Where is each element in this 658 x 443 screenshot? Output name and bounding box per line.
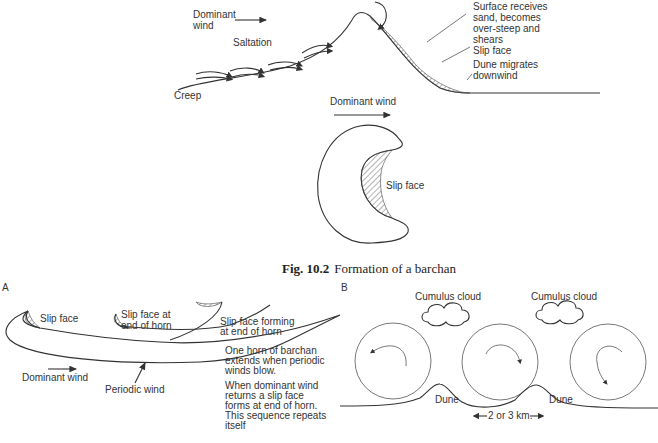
panel-a: A Slip face Slip face at end of horn Sli… (2, 282, 340, 431)
slip-face-label-a: Slip face (40, 313, 79, 324)
slip-face-hatch (370, 16, 470, 93)
panel-b-label: B (341, 282, 348, 293)
inner-rotation-arrow-icon (372, 346, 406, 366)
note1-line3: winds blow. (224, 365, 276, 376)
slip-face-label: Slip face (473, 45, 512, 56)
horn-label-2: end of horn (121, 320, 172, 331)
periodic-wind-arrow-icon (135, 363, 145, 383)
cumulus-cloud-icon (536, 301, 583, 324)
migrates-label-2: downwind (473, 70, 517, 81)
dune-profile: Dominant wind Saltation Creep Surface re… (174, 1, 600, 101)
surface-note-4: shears (473, 34, 503, 45)
inner-rotation-arrow-icon (597, 346, 622, 383)
surface-note-3: over-steep and (473, 23, 540, 34)
inner-rotation-arrow-icon (486, 345, 520, 362)
slip-face-a-hatch (25, 311, 40, 328)
convection-cell (570, 324, 646, 400)
shear-arrow-icon (375, 2, 386, 28)
panel-b: B Cumulus cloud Cumulus cloud Dune Dune … (340, 282, 658, 421)
ground-profile (340, 384, 658, 408)
distance-label: 2 or 3 km. (488, 410, 532, 421)
leader-line (442, 47, 470, 62)
surface-note-1: Surface receives (473, 1, 547, 12)
dominant-wind-label-2: wind (192, 20, 214, 31)
figure-caption: Fig. 10.2Formation of a barchan (282, 261, 456, 276)
caption-number: Fig. 10.2 (282, 261, 329, 276)
barchan-plan: Dominant wind Slip face (318, 96, 425, 243)
cloud1-label: Cumulus cloud (415, 291, 481, 302)
convection-cell (355, 323, 431, 399)
note2-line5: itself (225, 420, 246, 431)
migrates-label-1: Dune migrates (473, 59, 538, 70)
dominant-wind-label: Dominant (193, 9, 236, 20)
caption-text: Formation of a barchan (334, 261, 456, 276)
barchan-diagram: Dominant wind Saltation Creep Surface re… (0, 0, 658, 443)
saltation-label: Saltation (233, 37, 272, 48)
creep-label: Creep (174, 90, 202, 101)
panel-a-label: A (2, 282, 9, 293)
cloud2-label: Cumulus cloud (531, 291, 597, 302)
plan-slip-face-label: Slip face (386, 180, 425, 191)
periodic-wind-label: Periodic wind (105, 384, 164, 395)
horn-label-1: Slip face at (121, 309, 171, 320)
saltation-arrows-icon (196, 45, 330, 79)
surface-note-2: sand, becomes (473, 12, 541, 23)
forming-label-2: at end of horn (220, 326, 282, 337)
dune2-label: Dune (549, 394, 573, 405)
leader-line (467, 74, 472, 80)
slip-face-forming-hatch (196, 302, 222, 307)
cumulus-cloud-icon (422, 303, 469, 326)
dune1-label: Dune (435, 394, 459, 405)
plan-wind-label: Dominant wind (330, 96, 396, 107)
leader-line (427, 14, 466, 42)
dominant-wind-label-a: Dominant wind (22, 372, 88, 383)
